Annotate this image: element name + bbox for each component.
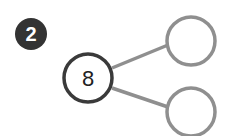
whole-value: 8 <box>82 66 94 91</box>
connector-bottom <box>112 88 168 107</box>
part-circle-bottom[interactable] <box>167 88 215 136</box>
problem-number: 2 <box>25 23 36 45</box>
number-bond-exercise: 2 8 <box>0 0 229 136</box>
connector-top <box>112 45 168 68</box>
number-bond-diagram: 2 8 <box>0 0 229 136</box>
part-circle-top[interactable] <box>167 17 215 65</box>
problem-number-badge: 2 <box>15 18 47 50</box>
whole-circle: 8 <box>64 54 112 102</box>
